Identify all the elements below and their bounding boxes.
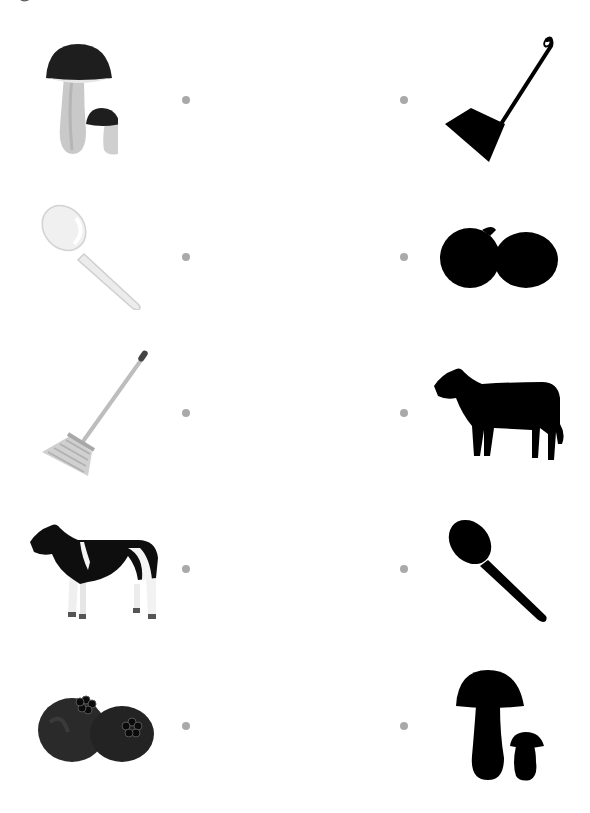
fruit-picture[interactable] [38,692,154,764]
match-dot-left-4[interactable] [182,565,190,573]
mushrooms-silhouette-icon [454,670,554,782]
match-dot-right-1[interactable] [400,96,408,104]
match-dot-right-4[interactable] [400,565,408,573]
cow-silhouette-icon [432,364,566,462]
fruit-silhouette[interactable] [440,224,558,290]
match-dot-left-2[interactable] [182,253,190,261]
match-dot-left-3[interactable] [182,409,190,417]
spoon-silhouette[interactable] [448,516,552,624]
spoon-picture[interactable] [40,202,144,310]
broom-silhouette-icon [443,36,555,164]
spoon-icon [40,202,144,310]
match-dot-right-3[interactable] [400,409,408,417]
fruit-silhouette-icon [440,224,558,290]
cow-silhouette[interactable] [432,364,566,462]
corner-mark [18,0,32,4]
broom-picture[interactable] [40,348,152,476]
mushrooms-picture[interactable] [42,42,118,158]
match-dot-left-1[interactable] [182,96,190,104]
mushrooms-silhouette[interactable] [454,670,554,782]
broom-silhouette[interactable] [443,36,555,164]
spoon-silhouette-icon [448,516,552,624]
cow-picture[interactable] [28,518,160,620]
mushrooms-icon [42,42,118,158]
match-dot-left-5[interactable] [182,722,190,730]
broom-icon [40,348,152,476]
cow-icon [28,518,160,620]
match-dot-right-5[interactable] [400,722,408,730]
fruit-icon [38,692,154,764]
match-dot-right-2[interactable] [400,253,408,261]
